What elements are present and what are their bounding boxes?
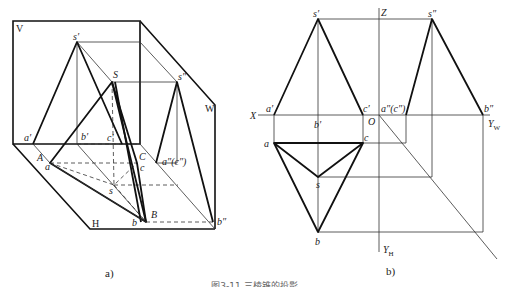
label-a-c-dprime: a″(c″) (381, 103, 406, 115)
subfigure-a-axonometric: V W H s′ S s″ a′ b′ c′ A a C c a″(c″) s … (13, 21, 227, 280)
label-b-dprime: b″ (217, 216, 227, 227)
label-b-dprime: b″ (484, 103, 494, 114)
subfigure-b-label: b) (386, 265, 396, 278)
label-s-prime: s′ (313, 8, 320, 19)
label-s-prime: s′ (73, 31, 80, 42)
label-s: s (316, 179, 320, 190)
dashed-a-s-c (50, 163, 137, 185)
label-a: a (45, 161, 50, 172)
label-YW: YW (488, 118, 501, 132)
projector-b-w (318, 115, 483, 232)
label-s-dprime: s″ (428, 8, 437, 19)
label-V: V (16, 23, 24, 34)
label-a-prime: a′ (266, 103, 274, 114)
label-Z: Z (381, 7, 387, 18)
label-W: W (205, 103, 215, 114)
label-B: B (151, 209, 157, 220)
label-O: O (368, 116, 375, 127)
front-view (274, 19, 363, 115)
label-A: A (36, 152, 44, 163)
label-s-dprime: s″ (178, 71, 187, 82)
label-c: c (364, 132, 369, 143)
label-b-prime: b′ (81, 131, 89, 142)
label-a-c-dprime: a″(c″) (162, 156, 187, 168)
v-projection (33, 42, 122, 144)
label-S: S (113, 69, 118, 80)
label-X: X (249, 110, 257, 121)
label-H: H (92, 218, 99, 229)
label-b: b (315, 236, 320, 247)
figure-caption: 图3-11 三棱锥的投影 (0, 279, 509, 287)
label-c: c (140, 162, 145, 173)
label-c-prime: c′ (363, 103, 370, 114)
label-c-prime: c′ (107, 132, 114, 143)
projector-s-w (318, 19, 432, 177)
label-a: a (264, 138, 269, 149)
45-degree-line (379, 115, 497, 259)
label-b: b (132, 217, 137, 228)
label-a-prime: a′ (24, 132, 32, 143)
w-plane-frame (140, 21, 215, 229)
subfigure-b-orthographic: X Z O YW YH s′ s″ a′ b′ c′ a″(c″) b″ a c… (249, 7, 501, 278)
label-s: s (109, 185, 113, 196)
projection-figure: V W H s′ S s″ a′ b′ c′ A a C c a″(c″) s … (0, 0, 509, 287)
side-view (406, 19, 483, 115)
label-C: C (139, 151, 146, 162)
label-b-prime: b′ (314, 119, 322, 130)
projector-s-S (77, 42, 112, 82)
label-YH: YH (383, 244, 394, 258)
